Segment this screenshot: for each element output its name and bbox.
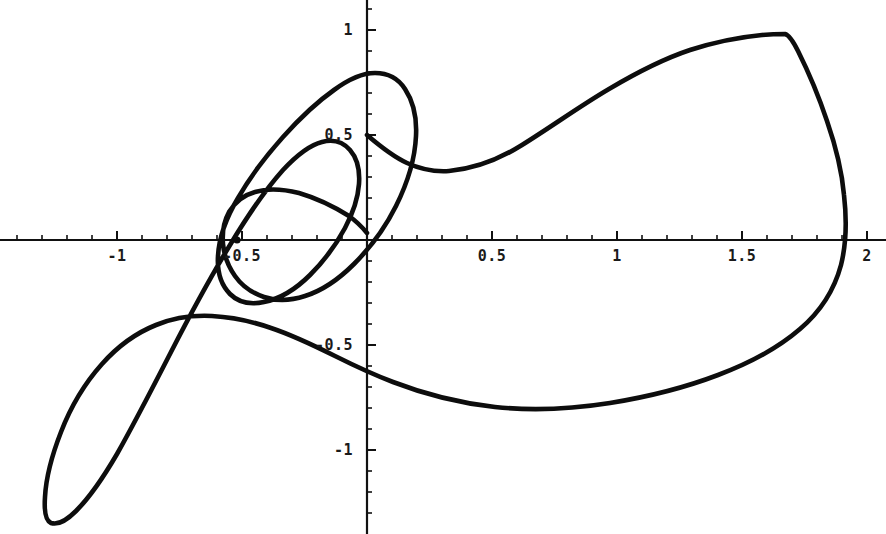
y-tick-label: 0.5 xyxy=(0,128,353,143)
marker-group xyxy=(233,236,240,243)
y-tick-label: -1 xyxy=(0,443,353,458)
x-tick-label: -1 xyxy=(107,249,126,264)
parametric-plot-figure: -1-0.50.511.5210.5-0.5-1 xyxy=(0,0,886,534)
x-tick-label: 1 xyxy=(612,249,622,264)
y-tick-label: -0.5 xyxy=(0,338,353,353)
x-tick-label: 0.5 xyxy=(478,249,507,264)
x-tick-label: 2 xyxy=(862,249,872,264)
y-tick-label: 1 xyxy=(0,23,353,38)
x-tick-label: 1.5 xyxy=(728,249,757,264)
axis-dot-marker xyxy=(233,236,240,243)
x-tick-label: -0.5 xyxy=(223,249,261,264)
